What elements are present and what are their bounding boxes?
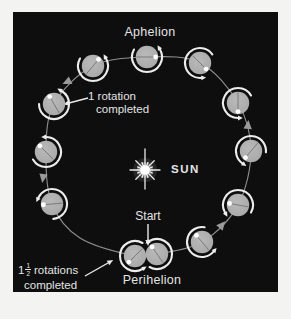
surface-dot — [47, 94, 52, 99]
planet-marker-bottom-left-position — [36, 189, 67, 219]
surface-dot — [150, 245, 155, 250]
one-and-half-label-line1: 1 1 2 rotations — [18, 263, 78, 279]
surface-dot — [41, 202, 46, 207]
planet-marker-perihelion-start-position — [120, 241, 147, 271]
planet-marker-bottom-right-position — [187, 227, 217, 257]
surface-dot — [153, 55, 158, 60]
aphelion-label: Aphelion — [98, 25, 202, 39]
planet-marker-left-position — [33, 135, 61, 167]
one-and-half-rest: rotations — [34, 264, 78, 277]
one-rotation-label-line2: completed — [88, 103, 149, 116]
planet-marker-perihelion-end-position — [145, 239, 172, 269]
surface-dot — [227, 201, 232, 206]
spin-arrowhead-icon — [41, 135, 46, 140]
fraction-denominator: 2 — [25, 269, 31, 277]
surface-dot — [194, 233, 199, 238]
one-rotation-label: 1 rotation completed — [88, 90, 149, 116]
figure-page: Aphelion 1 rotation completed SUN Start … — [0, 0, 291, 319]
fraction-numerator: 1 — [26, 262, 30, 269]
perihelion-label: Perihelion — [102, 273, 202, 287]
start-label: Start — [118, 209, 178, 223]
spin-arrowhead-icon — [238, 116, 243, 121]
planet-marker-right-upper-position — [223, 88, 251, 120]
one-and-half-label-line2: completed — [18, 279, 78, 292]
surface-dot — [243, 155, 248, 160]
sun-label: SUN — [171, 163, 200, 175]
spin-arrowhead-icon — [201, 76, 206, 81]
one-rotation-pointer-icon — [63, 98, 88, 106]
planet-marker-one-rotation-position — [39, 89, 69, 119]
orbit-direction-arrow-icon — [216, 218, 228, 230]
orbit-diagram-svg — [13, 12, 278, 292]
planet-marker-right-lower-position — [223, 190, 253, 217]
surface-dot — [204, 67, 209, 72]
planet-marker-upper-left-position — [78, 54, 108, 81]
surface-dot — [38, 144, 43, 149]
orbit-figure: Aphelion 1 rotation completed SUN Start … — [13, 12, 278, 292]
planet-marker-upper-right-position — [185, 48, 212, 80]
orbit-direction-arrow-icon — [243, 120, 252, 130]
surface-dot — [127, 260, 132, 265]
planet-marker-right-position — [236, 136, 266, 166]
surface-dot — [96, 57, 101, 62]
one-half-fraction: 1 2 — [25, 262, 31, 278]
one-and-half-whole: 1 — [18, 264, 24, 277]
surface-dot — [236, 109, 241, 114]
one-and-half-rotations-label: 1 1 2 rotations completed — [18, 263, 78, 292]
sun-icon — [130, 149, 160, 189]
planet-marker-aphelion-position — [132, 45, 162, 72]
one-rotation-label-line1: 1 rotation — [88, 90, 149, 103]
